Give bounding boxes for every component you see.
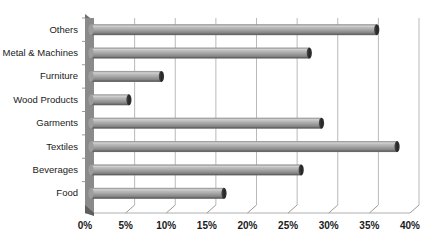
x-tick-label: 0% <box>78 220 93 231</box>
x-tick-label: 5% <box>118 220 133 231</box>
bar-end-cap <box>307 48 312 59</box>
category-label: Others <box>49 24 78 35</box>
bar-start-cap <box>88 188 93 199</box>
bar-end-cap <box>221 188 226 199</box>
x-tick-label: 25% <box>278 220 298 231</box>
bar <box>88 71 164 82</box>
bar <box>88 188 226 199</box>
bar-end-cap <box>159 71 164 82</box>
category-label: Beverages <box>33 164 79 175</box>
bar-start-cap <box>88 141 93 152</box>
bar-end-cap <box>394 141 399 152</box>
bar-start-cap <box>88 48 93 59</box>
x-tick-label: 20% <box>237 220 257 231</box>
bar-end-cap <box>299 164 304 175</box>
bar <box>88 24 379 35</box>
x-tick-label: 10% <box>156 220 176 231</box>
bar <box>88 48 312 59</box>
bar-end-cap <box>374 24 379 35</box>
x-tick-label: 30% <box>319 220 339 231</box>
category-label: Garments <box>36 117 78 128</box>
category-label: Furniture <box>40 70 78 81</box>
bar-start-cap <box>88 94 93 105</box>
bar-start-cap <box>88 24 93 35</box>
axis-wall-face <box>85 18 94 213</box>
x-tick-label: 35% <box>359 220 379 231</box>
bar-start-cap <box>88 118 93 129</box>
x-tick-label: 15% <box>197 220 217 231</box>
bar <box>88 141 399 152</box>
category-label: Wood Products <box>13 94 78 105</box>
chart-canvas: OthersMetal & MachinesFurnitureWood Prod… <box>0 0 431 243</box>
bar <box>88 118 324 129</box>
category-label: Food <box>56 187 78 198</box>
x-tick-label: 40% <box>400 220 420 231</box>
bar <box>88 164 303 175</box>
bar <box>88 94 131 105</box>
x-axis-tick-labels: 0%5%10%15%20%25%30%35%40% <box>78 220 420 231</box>
axis-wall <box>85 14 94 216</box>
bar-end-cap <box>319 118 324 129</box>
bar-start-cap <box>88 71 93 82</box>
bar-end-cap <box>126 94 131 105</box>
bar-start-cap <box>88 164 93 175</box>
bar-chart: OthersMetal & MachinesFurnitureWood Prod… <box>0 0 431 243</box>
category-label: Metal & Machines <box>2 47 78 58</box>
category-label: Textiles <box>46 141 78 152</box>
